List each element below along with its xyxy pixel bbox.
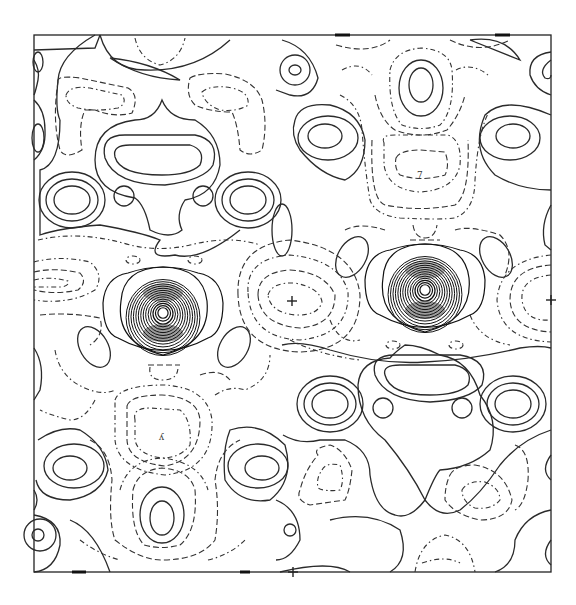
cross-right-edge-icon bbox=[546, 295, 556, 305]
atom-peak-left bbox=[103, 267, 223, 356]
atom-peak-right bbox=[365, 244, 485, 333]
contour-map: 7 ʎ bbox=[0, 0, 576, 605]
label-upper-right: 7 bbox=[417, 170, 423, 180]
position-markers bbox=[72, 35, 556, 577]
cross-center-left-icon bbox=[287, 296, 297, 306]
label-lower-left: ʎ bbox=[158, 432, 165, 442]
